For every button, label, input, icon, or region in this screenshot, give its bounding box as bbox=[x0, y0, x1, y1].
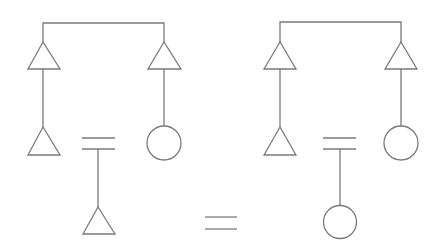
right-tree-upper-left-triangle bbox=[264, 42, 296, 69]
main-equals-sign bbox=[205, 217, 237, 229]
left-tree bbox=[28, 23, 181, 234]
left-tree-upper-right-triangle bbox=[148, 42, 181, 69]
left-tree-lower-right-circle bbox=[147, 126, 181, 160]
right-tree bbox=[264, 22, 418, 239]
right-tree-upper-right-triangle bbox=[385, 42, 417, 69]
left-tree-top-bar bbox=[43, 23, 164, 42]
left-tree-upper-left-triangle bbox=[28, 42, 60, 69]
right-tree-inner-circle bbox=[324, 206, 357, 239]
left-tree-inner-triangle bbox=[83, 207, 115, 234]
left-tree-lower-left-triangle bbox=[28, 127, 60, 155]
right-tree-lower-right-circle bbox=[384, 126, 418, 160]
right-tree-top-bar bbox=[280, 22, 401, 42]
right-tree-lower-left-triangle bbox=[264, 127, 296, 155]
diagram-canvas bbox=[0, 0, 437, 252]
